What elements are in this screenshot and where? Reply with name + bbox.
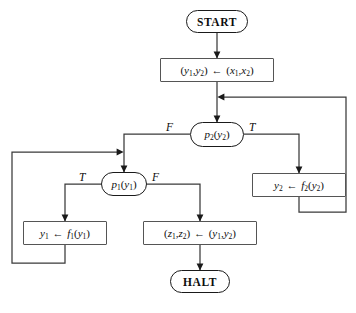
branch-label-test1-false: F [152,171,159,183]
node-init[interactable]: (y1,y2) ← (x1,x2) [160,58,274,82]
node-output-label: (z1,z2) ← (y1,y2) [164,228,236,239]
node-halt-label: HALT [183,276,217,288]
node-init-label: (y1,y2) ← (x1,x2) [180,65,253,76]
edge-test2-true-to-update2 [244,134,299,173]
node-output[interactable]: (z1,z2) ← (y1,y2) [143,221,257,245]
flowchart-connectors [0,0,356,313]
flowchart-canvas: START (y1,y2) ← (x1,x2) p2(y2) F T p1(y1… [0,0,356,313]
node-test1-label: p1(y1) [111,179,136,190]
node-update2-label: y2 ← f2(y2) [274,180,324,191]
node-start-label: START [197,16,237,28]
node-test2-label: p2(y2) [204,129,229,140]
node-halt[interactable]: HALT [170,270,230,293]
node-update2[interactable]: y2 ← f2(y2) [252,173,346,197]
node-test2[interactable]: p2(y2) [190,122,244,147]
node-test1[interactable]: p1(y1) [101,172,147,196]
node-start[interactable]: START [186,10,248,33]
branch-label-test2-false: F [166,121,173,133]
edge-test1-true-to-update1 [65,184,101,221]
branch-label-test1-true: T [79,171,85,183]
edge-test1-false-to-output [147,184,200,221]
node-update1-label: y1 ← f1(y1) [40,228,90,239]
branch-label-test2-true: T [249,121,255,133]
edge-test2-false-to-test1 [124,134,190,172]
node-update1[interactable]: y1 ← f1(y1) [23,221,107,245]
